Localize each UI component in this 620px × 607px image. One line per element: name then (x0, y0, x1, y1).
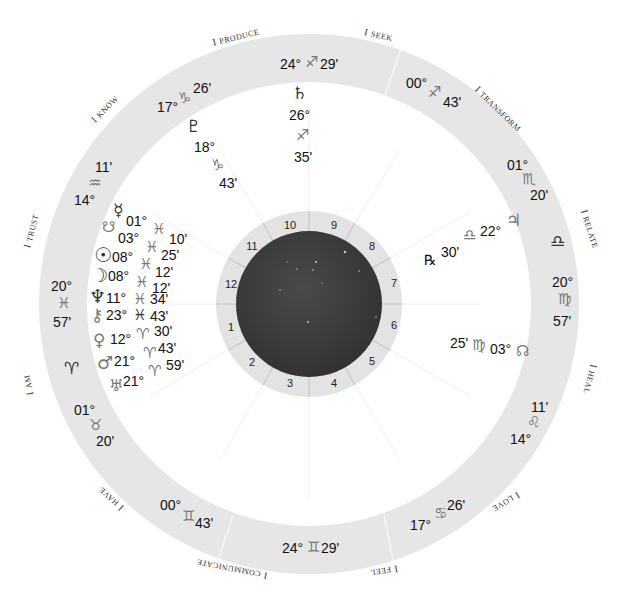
venus-icon: ♀ (93, 332, 105, 349)
planet-minute: 30' (441, 245, 459, 259)
capricorn-icon: ♑ (211, 158, 224, 173)
planet-minute: 43' (219, 176, 237, 190)
cusp-degree: 00° (160, 498, 181, 512)
sagittarius-icon: ♐ (296, 128, 309, 143)
planet-degree: 21° (114, 354, 135, 368)
planet-minute: 43' (150, 309, 168, 323)
planet-minute: 10' (169, 232, 187, 246)
aries-icon: ♈ (136, 327, 149, 342)
sagittarius-icon: ♐ (305, 55, 318, 70)
planet-degree: 26° (289, 108, 310, 122)
neptune-icon: ♆ (89, 287, 106, 306)
planet-minute: 59' (166, 358, 184, 372)
theme-first: I (363, 26, 369, 38)
gemini-icon: ♊ (307, 540, 320, 555)
saturn-icon: ♄ (292, 85, 307, 102)
sagittarius-icon: ♐ (428, 85, 441, 100)
aquarius-icon: ♒ (88, 176, 101, 191)
planet-degree: 22° (480, 224, 501, 238)
house-number-9: 9 (331, 220, 337, 231)
aries-icon: ♈ (148, 364, 161, 379)
taurus-icon: ♉ (89, 418, 102, 433)
sun-icon: ☉ (94, 245, 112, 265)
pisces-icon: ♓ (135, 275, 148, 290)
pisces-icon: ♓ (133, 292, 146, 307)
house-number-12: 12 (225, 279, 237, 290)
mercury-icon: ☿ (113, 202, 123, 219)
planet-minute: 43' (158, 341, 176, 355)
virgo-icon: ♍ (472, 338, 485, 353)
planet-degree: 18° (194, 140, 215, 154)
house-number-6: 6 (391, 320, 397, 331)
house-number-5: 5 (369, 356, 375, 367)
moon-icon: ☽ (91, 266, 108, 285)
pluto-icon: ♇ (186, 118, 201, 135)
cusp-degree: 14° (74, 193, 95, 207)
cusp-minute: 20' (96, 434, 114, 448)
cusp-minute: 26' (447, 498, 465, 512)
planet-degree: 11° (106, 291, 126, 305)
cusp-degree: 24° (280, 57, 301, 71)
house-number-1: 1 (228, 322, 234, 333)
leo-icon: ♌ (527, 415, 540, 430)
capricorn-icon: ♑ (178, 91, 191, 106)
planet-degree: 21° (123, 374, 144, 388)
cusp-minute: 26' (193, 81, 211, 95)
pisces-icon: ♓ (152, 222, 165, 237)
cusp-minute: 20' (530, 188, 548, 202)
libra-icon: ♎ (463, 228, 476, 243)
house-number-7: 7 (391, 278, 397, 289)
retrograde-icon: ℞ (424, 253, 437, 267)
cusp-minute: 43' (195, 516, 213, 530)
jupiter-icon: ♃ (506, 212, 521, 229)
cusp-minute: 29' (320, 57, 338, 71)
night-sky-disc (236, 231, 382, 377)
house-number-4: 4 (331, 378, 337, 389)
planet-minute: 35' (294, 150, 312, 164)
aries-icon: ♈ (143, 346, 156, 361)
aries-icon: ♈ (64, 360, 79, 377)
scorpio-icon: ♏ (522, 172, 535, 187)
planet-degree: 03° (490, 342, 511, 356)
north-node-icon: ☊ (516, 344, 529, 359)
libra-icon: ♎ (550, 233, 565, 250)
mars-icon: ♂ (97, 354, 113, 372)
gemini-icon: ♊ (182, 509, 195, 524)
planet-minute: 12' (155, 265, 173, 279)
cusp-degree: 20° (51, 279, 72, 293)
pisces-icon: ♓ (145, 240, 158, 255)
planet-degree: 01° (126, 214, 147, 228)
cusp-minute: 57' (553, 314, 571, 328)
pisces-icon: ♓ (139, 257, 152, 272)
planet-degree: 08° (112, 250, 133, 264)
pisces-icon: ♓ (57, 296, 70, 311)
cusp-minute: 29' (321, 541, 339, 555)
planet-degree: 23° (106, 308, 127, 322)
planet-minute: 25' (161, 248, 179, 262)
virgo-icon: ♍ (558, 292, 571, 307)
planet-degree: 03° (118, 231, 139, 245)
uranus-icon: ♅ (109, 378, 123, 394)
cusp-degree: 00° (406, 76, 427, 90)
planet-minute: 34' (150, 292, 168, 306)
cusp-degree: 24° (282, 541, 303, 555)
cusp-degree: 14° (510, 432, 531, 446)
planet-degree: 12° (110, 332, 131, 346)
house-number-10: 10 (284, 220, 296, 231)
cusp-degree: 17° (410, 518, 431, 532)
cusp-degree: 17° (157, 100, 178, 114)
cusp-minute: 57' (53, 315, 71, 329)
planet-minute: 30' (154, 324, 172, 338)
house-number-2: 2 (249, 357, 255, 368)
house-number-8: 8 (369, 241, 375, 252)
chiron-icon: ⚷ (91, 307, 103, 324)
cusp-minute: 11' (531, 400, 548, 414)
cusp-degree: 20° (552, 275, 573, 289)
planet-minute: 25' (450, 336, 468, 350)
cancer-icon: ♋ (434, 506, 447, 521)
house-number-3: 3 (287, 378, 293, 389)
cusp-minute: 43' (443, 95, 461, 109)
house-number-11: 11 (246, 241, 257, 252)
pisces-icon: ♓ (133, 308, 146, 323)
south-node-icon: ☋ (102, 220, 115, 235)
